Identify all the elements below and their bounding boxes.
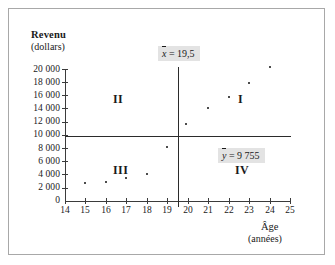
x-tick-mark <box>249 198 250 204</box>
y-axis-unit-label: (dollars) <box>31 41 65 53</box>
x-axis-unit-label: (années) <box>248 233 282 245</box>
y-tick-label: 20 000 <box>14 65 60 75</box>
x-tick-label: 14 <box>54 205 76 215</box>
x-tick-mark <box>147 198 148 204</box>
y-tick-label: 4 000 <box>14 170 60 180</box>
x-tick-mark <box>65 198 66 204</box>
x-tick-mark <box>188 198 189 204</box>
quadrant-label-III: III <box>113 164 128 176</box>
x-tick-label: 22 <box>218 205 240 215</box>
data-point <box>228 96 231 99</box>
quadrant-label-I: I <box>238 93 243 105</box>
x-tick-label: 19 <box>156 205 178 215</box>
quadrant-label-II: II <box>113 93 123 105</box>
x-tick-label: 23 <box>238 205 260 215</box>
x-tick-mark <box>229 198 230 204</box>
x-tick-label: 21 <box>197 205 219 215</box>
x-tick-label: 17 <box>115 205 137 215</box>
y-tick-label: 10 000 <box>14 130 60 140</box>
mean-x-variable: x <box>162 48 166 59</box>
y-tick-mark <box>62 174 68 175</box>
y-tick-label: 6 000 <box>14 157 60 167</box>
y-tick-mark <box>62 82 68 83</box>
mean-y-value: = 9 755 <box>229 150 260 161</box>
data-point <box>166 146 169 149</box>
x-tick-mark <box>208 198 209 204</box>
y-tick-mark <box>62 148 68 149</box>
y-tick-mark <box>62 95 68 96</box>
data-point <box>84 182 87 185</box>
mean-y-variable: y <box>222 150 226 161</box>
x-tick-mark <box>126 198 127 204</box>
data-point <box>248 82 251 85</box>
figure-frame: Revenu (dollars) Âge (années) 20 000 18 … <box>8 8 325 255</box>
x-tick-mark <box>106 198 107 204</box>
y-tick-label: 2 000 <box>14 183 60 193</box>
data-point <box>185 123 188 126</box>
data-point <box>269 66 272 69</box>
data-point <box>146 173 149 176</box>
y-axis-title: Revenu <box>31 29 66 41</box>
x-tick-label: 15 <box>74 205 96 215</box>
x-tick-label: 20 <box>177 205 199 215</box>
x-axis-title: Âge <box>261 221 279 233</box>
x-tick-label: 18 <box>136 205 158 215</box>
y-tick-label: 18 000 <box>14 78 60 88</box>
x-tick-label: 24 <box>259 205 281 215</box>
quadrant-label-IV: IV <box>235 164 249 176</box>
x-tick-mark <box>167 198 168 204</box>
data-point <box>105 181 108 184</box>
x-tick-label: 25 <box>279 205 301 215</box>
y-tick-label: 8 000 <box>14 144 60 154</box>
y-tick-label: 12 000 <box>14 117 60 127</box>
mean-y-reference-line <box>65 136 291 137</box>
data-point <box>207 107 210 110</box>
data-point <box>125 177 128 180</box>
y-tick-mark <box>62 188 68 189</box>
x-tick-mark <box>290 198 291 204</box>
mean-y-annotation: y = 9 755 <box>218 148 265 163</box>
x-tick-label: 16 <box>95 205 117 215</box>
scatter-plot: Revenu (dollars) Âge (années) 20 000 18 … <box>9 9 324 254</box>
y-tick-label: 14 000 <box>14 104 60 114</box>
y-tick-mark <box>62 122 68 123</box>
x-tick-mark <box>270 198 271 204</box>
mean-x-value: = 19,5 <box>169 48 195 59</box>
mean-x-annotation: x = 19,5 <box>158 46 200 61</box>
y-tick-mark <box>62 161 68 162</box>
y-tick-label: 16 000 <box>14 91 60 101</box>
y-tick-mark <box>62 69 68 70</box>
y-tick-mark <box>62 108 68 109</box>
x-tick-mark <box>85 198 86 204</box>
